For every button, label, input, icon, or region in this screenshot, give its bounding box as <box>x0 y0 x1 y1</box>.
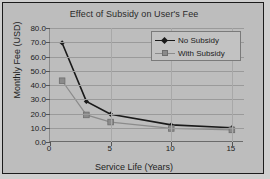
gridline-x <box>111 28 112 142</box>
y-tick-mark <box>46 28 50 29</box>
y-tick-mark <box>46 71 50 72</box>
legend-marker-square-icon <box>155 48 175 59</box>
y-tick-mark <box>46 128 50 129</box>
series-line-1 <box>62 81 232 130</box>
x-tick-label: 15 <box>226 144 235 153</box>
gridline-y <box>50 85 244 86</box>
legend-label-1: With Subsidy <box>178 49 225 58</box>
y-tick-label: 30.0 <box>30 95 46 104</box>
y-tick-label: 60.0 <box>30 52 46 61</box>
gridline-y <box>50 142 244 143</box>
chart-legend: No Subsidy With Subsidy <box>151 31 241 61</box>
y-tick-mark <box>46 85 50 86</box>
y-axis-tick-labels: 0.010.020.030.040.050.060.070.080.0 <box>3 28 46 142</box>
legend-marker-diamond-icon <box>155 35 175 46</box>
chart-frame: Effect of Subsidy on User's Fee Monthly … <box>2 2 264 174</box>
y-tick-mark <box>46 114 50 115</box>
gridline-y <box>50 128 244 129</box>
x-axis-tick-labels: 051015 <box>49 144 243 156</box>
x-tick-mark <box>232 142 233 146</box>
y-tick-mark <box>46 57 50 58</box>
y-tick-mark <box>46 42 50 43</box>
chart-title: Effect of Subsidy on User's Fee <box>3 9 265 19</box>
gridline-y <box>50 71 244 72</box>
legend-item-with-subsidy: With Subsidy <box>155 47 237 60</box>
x-tick-mark <box>111 142 112 146</box>
x-axis-title: Service Life (Years) <box>3 162 265 172</box>
gridline-y <box>50 99 244 100</box>
y-tick-label: 20.0 <box>30 109 46 118</box>
y-tick-label: 80.0 <box>30 24 46 33</box>
x-tick-mark <box>171 142 172 146</box>
y-tick-label: 50.0 <box>30 66 46 75</box>
legend-item-no-subsidy: No Subsidy <box>155 34 237 47</box>
gridline-y <box>50 28 244 29</box>
y-tick-label: 10.0 <box>30 123 46 132</box>
gridline-y <box>50 114 244 115</box>
y-tick-mark <box>46 99 50 100</box>
y-tick-label: 40.0 <box>30 81 46 90</box>
x-tick-mark <box>50 142 51 146</box>
x-tick-label: 10 <box>166 144 175 153</box>
y-tick-label: 70.0 <box>30 38 46 47</box>
data-point-marker-square <box>59 78 65 84</box>
legend-label-0: No Subsidy <box>178 36 219 45</box>
y-tick-label: 0.0 <box>35 138 46 147</box>
